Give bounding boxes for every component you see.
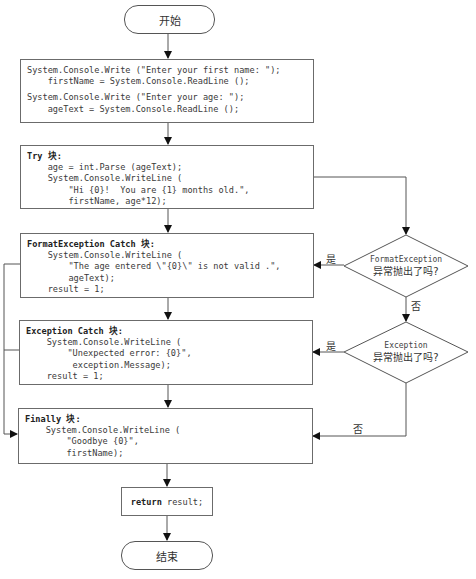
try-block: Try 块: age = int.Parse (ageText); System… [20, 145, 314, 209]
decision-format-line2: 异常抛出了吗? [356, 266, 456, 278]
yes-label-exception: 是 [326, 338, 336, 353]
decision-exception-text: Exception 异常抛出了吗? [356, 340, 456, 364]
input-block: System.Console.Write ("Enter your first … [20, 59, 314, 123]
exception-catch-line: exception.Message); [26, 360, 312, 371]
decision-exception-line1: Exception [356, 340, 456, 352]
return-block: return result; [121, 487, 213, 516]
decision-format-line1: FormatException [356, 254, 456, 266]
yes-label-format: 是 [326, 251, 336, 266]
format-catch-line: result = 1; [27, 284, 313, 295]
try-line: System.Console.WriteLine ( [27, 173, 313, 184]
no-label-format: 否 [411, 298, 421, 313]
input-line: ageText = System.Console.ReadLine (); [27, 104, 313, 115]
end-label: 结束 [156, 548, 178, 564]
exception-catch-line: "Unexpected error: {0}", [26, 348, 312, 359]
finally-block: Finally 块: System.Console.WriteLine ( "G… [18, 408, 313, 464]
try-line: firstName, age*12); [27, 196, 313, 207]
start-terminal: 开始 [124, 5, 215, 34]
input-line: System.Console.Write ("Enter your first … [27, 65, 313, 76]
exception-catch-line: System.Console.WriteLine ( [26, 337, 312, 348]
input-line: firstName = System.Console.ReadLine (); [27, 76, 313, 87]
return-keyword: return [131, 497, 162, 507]
start-label: 开始 [159, 12, 181, 28]
try-line: age = int.Parse (ageText); [27, 162, 313, 173]
exception-catch-line: result = 1; [26, 371, 312, 382]
decision-exception-line2: 异常抛出了吗? [356, 352, 456, 364]
no-label-exception: 否 [353, 421, 363, 436]
decision-format-text: FormatException 异常抛出了吗? [356, 254, 456, 278]
exception-catch-header: Exception Catch 块: [26, 326, 312, 337]
try-line: "Hi {0}! You are {1} months old.", [27, 185, 313, 196]
finally-line: "Goodbye {0}", [25, 436, 312, 447]
return-value: result; [162, 497, 203, 507]
format-catch-line: System.Console.WriteLine ( [27, 250, 313, 261]
try-header: Try 块: [27, 151, 313, 162]
input-line: System.Console.Write ("Enter your age: "… [27, 92, 313, 103]
finally-header: Finally 块: [25, 414, 312, 425]
end-terminal: 结束 [121, 541, 213, 570]
finally-line: firstName); [25, 448, 312, 459]
format-catch-line: "The age entered \"{0}\" is not valid ."… [27, 261, 313, 272]
format-catch-line: ageText); [27, 273, 313, 284]
format-catch-header: FormatException Catch 块: [27, 239, 313, 250]
format-catch-block: FormatException Catch 块: System.Console.… [20, 233, 314, 298]
finally-line: System.Console.WriteLine ( [25, 425, 312, 436]
exception-catch-block: Exception Catch 块: System.Console.WriteL… [19, 320, 313, 385]
